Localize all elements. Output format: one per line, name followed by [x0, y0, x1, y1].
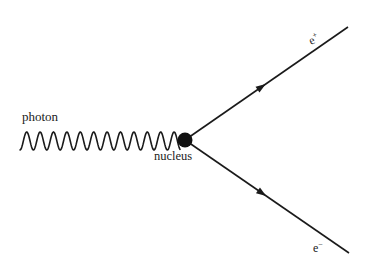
electron-line [185, 140, 349, 253]
electron-label: e− [313, 240, 323, 255]
electron-arrow-icon [256, 187, 266, 196]
positron-line [185, 27, 348, 140]
nucleus-label: nucleus [154, 149, 192, 163]
positron-arrow-icon [256, 84, 266, 93]
pair-production-diagram: photon nucleus e+ e− [0, 0, 375, 265]
positron-label: e+ [306, 30, 322, 48]
nucleus-dot [178, 133, 193, 148]
photon-label: photon [22, 109, 59, 124]
photon-wave [20, 132, 180, 150]
